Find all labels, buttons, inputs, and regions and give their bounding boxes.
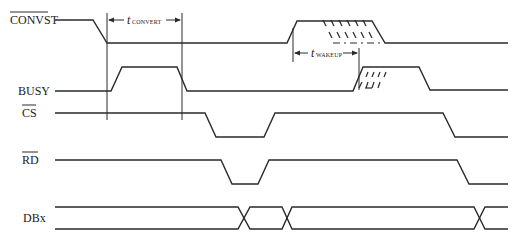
waveform-convst (55, 20, 508, 43)
svg-text:RD: RD (22, 153, 39, 167)
svg-text:DBx: DBx (23, 211, 46, 225)
arrow-left-icon (294, 51, 300, 56)
signal-label-busy: BUSY (18, 84, 50, 98)
svg-text:CONVST: CONVST (10, 13, 59, 27)
svg-text:CONVERT: CONVERT (132, 19, 162, 25)
arrow-left-icon (108, 18, 114, 23)
convst-hatch-lower (329, 32, 372, 38)
svg-text:t: t (127, 13, 131, 27)
waveform-cs (55, 113, 508, 137)
signal-label-convst: CONVST (10, 12, 59, 27)
arrow-right-icon (175, 18, 181, 23)
svg-text:CS: CS (22, 106, 37, 120)
svg-text:BUSY: BUSY (18, 84, 50, 98)
svg-text:t: t (311, 46, 315, 60)
t-wakeup-annotation: t WAKEUP (293, 28, 359, 90)
signal-label-rd: RD (22, 152, 39, 167)
waveform-busy (55, 67, 508, 91)
waveform-rd (55, 160, 508, 184)
signal-label-cs: CS (22, 105, 37, 120)
signal-label-dbx: DBx (23, 211, 46, 225)
waveform-dbx (55, 207, 508, 229)
arrow-right-icon (352, 51, 358, 56)
busy-hatch (359, 72, 386, 88)
svg-text:WAKEUP: WAKEUP (316, 52, 343, 58)
timing-diagram: CONVST BUSY CS RD DBx (0, 0, 521, 249)
